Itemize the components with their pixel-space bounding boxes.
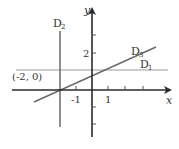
x-axis-label: x xyxy=(166,94,173,107)
svg-text:1: 1 xyxy=(148,64,152,72)
y-axis-label: y xyxy=(83,4,91,17)
label-d3: D 3 xyxy=(131,45,143,59)
coordinate-diagram: y x 2 -1 1 (-2, 0) D 2 D 3 D 1 xyxy=(0,0,179,149)
y-tick-label-2: 2 xyxy=(83,48,89,59)
svg-text:2: 2 xyxy=(61,23,65,31)
x-tick-label-minus-1: -1 xyxy=(71,94,81,105)
label-d2: D 2 xyxy=(53,17,65,31)
point-label: (-2, 0) xyxy=(12,71,42,82)
x-tick-label-1: 1 xyxy=(105,94,111,105)
label-d1: D 1 xyxy=(140,58,152,72)
